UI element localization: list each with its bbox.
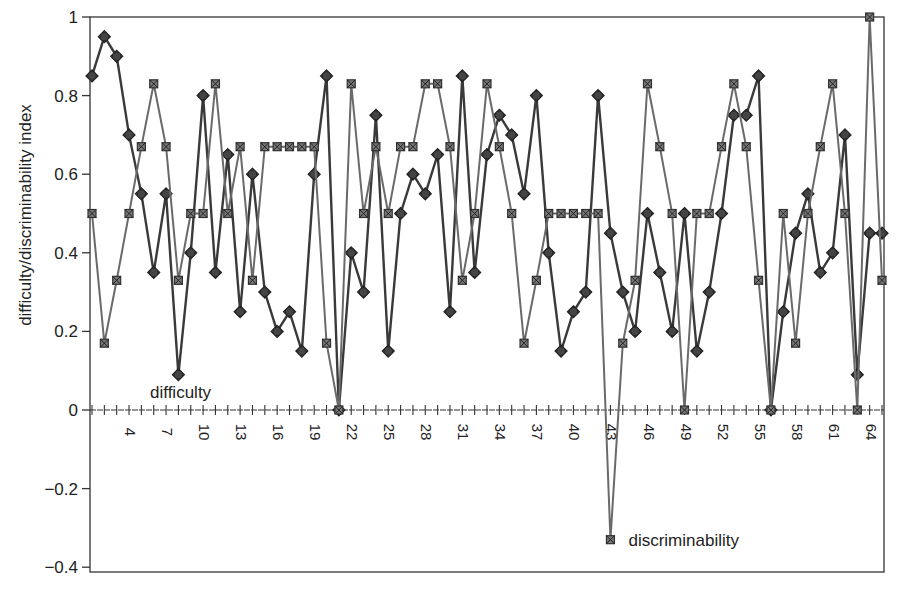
difficulty-annotation: difficulty [150, 383, 212, 402]
x-tick-label: 37 [529, 424, 546, 441]
x-tick-label: 31 [455, 424, 472, 441]
discriminability-annotation: discriminability [628, 531, 739, 550]
x-tick-label: 7 [159, 428, 176, 436]
x-tick-label: 49 [678, 424, 695, 441]
x-tick-label: 64 [863, 424, 880, 441]
x-tick-label: 34 [492, 424, 509, 441]
y-tick-label: −0.4 [44, 558, 78, 577]
x-tick-label: 28 [418, 424, 435, 441]
x-tick-label: 52 [715, 424, 732, 441]
x-tick-label: 19 [307, 424, 324, 441]
y-tick-label: −0.2 [44, 480, 78, 499]
y-tick-label: 1 [69, 8, 78, 27]
x-tick-label: 10 [196, 424, 213, 441]
y-tick-label: 0.6 [54, 165, 78, 184]
line-chart: −0.4−0.200.20.40.60.81471013161922252831… [0, 0, 898, 597]
x-tick-label: 13 [233, 424, 250, 441]
discriminability-line [92, 17, 882, 540]
x-tick-label: 55 [752, 424, 769, 441]
x-tick-label: 46 [641, 424, 658, 441]
y-tick-label: 0.2 [54, 322, 78, 341]
y-tick-label: 0.4 [54, 244, 78, 263]
x-tick-label: 25 [381, 424, 398, 441]
x-tick-label: 40 [566, 424, 583, 441]
x-tick-label: 22 [344, 424, 361, 441]
x-tick-label: 4 [122, 428, 139, 436]
plot-frame [90, 17, 884, 572]
x-tick-label: 16 [270, 424, 287, 441]
y-tick-label: 0 [69, 401, 78, 420]
y-tick-label: 0.8 [54, 87, 78, 106]
x-tick-label: 61 [826, 424, 843, 441]
x-tick-label: 58 [789, 424, 806, 441]
